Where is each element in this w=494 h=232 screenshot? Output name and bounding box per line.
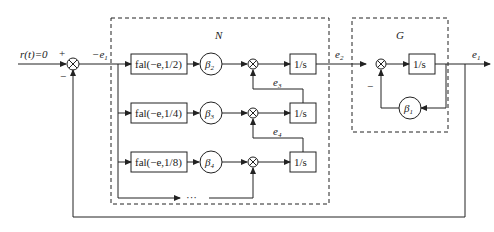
N-label: N bbox=[214, 29, 223, 41]
diagram-canvas: r(t)=0 + − −e1 N fal(−e,1/2) β2 1/s fal(… bbox=[0, 0, 494, 232]
integrator-label-2: 1/s bbox=[294, 107, 307, 119]
integrator-label-G: 1/s bbox=[413, 58, 426, 70]
integrator-label-1: 1/s bbox=[294, 58, 307, 70]
G-label: G bbox=[396, 29, 404, 41]
G-minus-sign: − bbox=[367, 80, 373, 92]
e3-label: e3 bbox=[273, 76, 282, 90]
ellipsis: ··· bbox=[186, 191, 197, 203]
integrator-label-3: 1/s bbox=[294, 156, 307, 168]
minus-sign: − bbox=[60, 70, 66, 82]
plus-sign: + bbox=[59, 47, 65, 59]
block-diagram: r(t)=0 + − −e1 N fal(−e,1/2) β2 1/s fal(… bbox=[0, 0, 494, 232]
e2-label: e2 bbox=[335, 48, 344, 62]
beta1-label: β1 bbox=[403, 102, 413, 116]
beta2-label: β2 bbox=[204, 58, 214, 72]
beta3-label: β3 bbox=[204, 107, 214, 121]
fal-label-2: fal(−e,1/4) bbox=[135, 107, 182, 120]
beta4-label: β4 bbox=[204, 156, 214, 170]
e1-output-label: e1 bbox=[472, 48, 480, 62]
fal-label-1: fal(−e,1/2) bbox=[135, 58, 182, 71]
fal-label-3: fal(−e,1/8) bbox=[135, 156, 182, 169]
neg-e1-label: −e1 bbox=[92, 48, 108, 62]
input-label: r(t)=0 bbox=[20, 48, 48, 61]
e4-label: e4 bbox=[273, 125, 282, 139]
